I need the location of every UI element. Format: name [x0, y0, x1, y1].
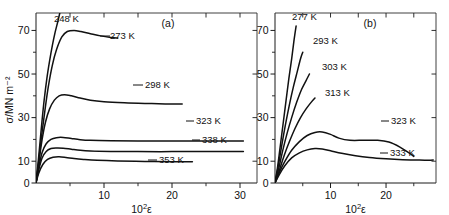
curves-a: [36, 13, 243, 183]
y-tick-label-b-4: 70: [257, 24, 269, 36]
y-axis-title-a: σ/MN m⁻²: [3, 76, 15, 123]
page-header-faint: [0, 0, 449, 9]
x-axis-title-base-b: 10: [345, 203, 357, 215]
stress-strain-figure: 010305070102030(a)102ε0103050701020(b)10…: [0, 0, 449, 215]
x-tick-label-a-0: 10: [98, 189, 110, 201]
curve-label-a-4: 338 K: [202, 134, 227, 145]
curve-label-b-4: 323 K: [391, 115, 416, 126]
curve-label-a-2: 298 K: [145, 79, 170, 90]
x-tick-label-a-2: 30: [234, 189, 246, 201]
curve-a-4: [36, 148, 243, 183]
curve-a-2: [36, 95, 182, 183]
curve-label-a-3: 323 K: [196, 115, 221, 126]
y-tick-label-b-0: 0: [263, 177, 269, 189]
curves-b: [275, 26, 433, 183]
curve-label-b-1: 293 K: [313, 35, 338, 46]
y-tick-label-a-2: 30: [18, 111, 30, 123]
x-tick-label-b-0: 10: [325, 189, 337, 201]
curve-label-b-5: 333 K: [390, 147, 415, 158]
y-tick-label-a-3: 50: [18, 68, 30, 80]
panel-b: 0103050701020(b)102ε: [257, 13, 436, 215]
y-tick-label-a-4: 70: [18, 24, 30, 36]
curve-label-b-2: 303 K: [322, 61, 347, 72]
x-axis-title-var-a: ε: [147, 203, 152, 215]
figure-container: 010305070102030(a)102ε0103050701020(b)10…: [0, 0, 449, 215]
panel-label-a: (a): [162, 17, 175, 29]
x-axis-title-var-b: ε: [361, 203, 366, 215]
curve-label-a-5: 353 K: [159, 154, 184, 165]
y-tick-label-b-3: 50: [257, 68, 269, 80]
y-tick-label-a-1: 10: [18, 155, 30, 167]
x-tick-label-a-1: 20: [166, 189, 178, 201]
curve-label-b-0: 277 K: [292, 11, 317, 22]
curve-label-a-0: 248 K: [54, 13, 79, 24]
x-axis-title-b: 102ε: [345, 202, 366, 215]
panel-label-b: (b): [364, 17, 377, 29]
x-tick-label-b-1: 20: [380, 189, 392, 201]
curve-label-b-3: 313 K: [325, 87, 350, 98]
x-axis-title-a: 102ε: [131, 202, 152, 215]
y-tick-label-b-1: 10: [257, 155, 269, 167]
curve-label-a-1: 273 K: [110, 30, 135, 41]
y-tick-label-b-2: 30: [257, 111, 269, 123]
x-axis-title-base-a: 10: [131, 203, 143, 215]
y-tick-label-a-0: 0: [24, 177, 30, 189]
panel-a: 010305070102030(a)102ε: [18, 13, 257, 215]
